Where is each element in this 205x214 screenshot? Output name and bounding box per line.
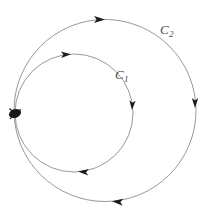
arrow-c1-top (61, 51, 71, 58)
tangency-node (8, 107, 23, 119)
outer-circle-path (14, 20, 196, 202)
arrow-c2-top (94, 16, 105, 23)
curve-label-c1-base: C (115, 67, 124, 82)
curve-label-c1-subscript: 1 (124, 74, 129, 84)
figure-canvas: C2 C1 (0, 0, 205, 214)
arrow-c1-bottom (78, 168, 89, 175)
curve-label-c2: C2 (160, 21, 174, 39)
curve-label-c1: C1 (115, 66, 129, 84)
arrow-c2-bottom (112, 198, 124, 206)
circles-diagram-svg (0, 0, 205, 214)
curve-label-c2-base: C (160, 22, 169, 37)
curve-label-c2-subscript: 2 (169, 29, 174, 39)
